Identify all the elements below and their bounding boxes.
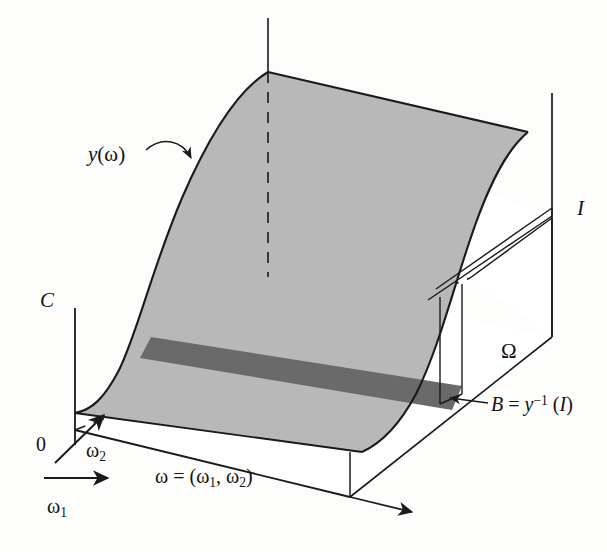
- figure-container: C 0 y(ω) I Ω B = y−1 (I) ω1 ω2 ω = (ω1, …: [0, 0, 607, 552]
- label-omega-vector-second: ω: [226, 465, 239, 487]
- label-band-lhs: B: [491, 393, 503, 415]
- label-omega-vector-close: ): [246, 465, 253, 487]
- label-omega-vector-first: ω: [196, 465, 209, 487]
- label-c-axis: C: [40, 290, 54, 311]
- label-interval: I: [577, 198, 584, 219]
- label-band-preimage: B = y−1 (I): [491, 394, 573, 414]
- label-omega-vector: ω = (ω1, ω2): [155, 466, 253, 489]
- label-omega2-subscript: 2: [99, 449, 106, 464]
- label-surface-function: y(ω): [88, 144, 125, 165]
- label-band-paren-open: (: [553, 393, 560, 415]
- label-surface-base: y: [88, 142, 97, 166]
- base-direction-arrow: [350, 497, 412, 512]
- label-band-equals: =: [508, 393, 519, 415]
- label-omega-vector-equals: =: [173, 465, 184, 487]
- label-omega1: ω1: [47, 496, 67, 519]
- label-surface-omega: ω: [104, 142, 118, 166]
- label-origin: 0: [36, 434, 46, 454]
- surface-diagram-svg: [0, 0, 607, 552]
- label-surface-paren-close: ): [118, 142, 125, 166]
- y-omega-callout-arrow: [146, 142, 191, 158]
- label-domain-region: Ω: [501, 341, 517, 362]
- label-omega2: ω2: [86, 440, 106, 463]
- label-omega1-symbol: ω: [47, 495, 60, 517]
- label-omega-vector-comma: ,: [216, 465, 221, 487]
- label-omega2-symbol: ω: [86, 439, 99, 461]
- label-band-paren-close: ): [566, 393, 573, 415]
- label-band-exponent: −1: [533, 393, 547, 408]
- label-omega-vector-symbol: ω: [155, 465, 168, 487]
- label-omega1-subscript: 1: [60, 505, 67, 520]
